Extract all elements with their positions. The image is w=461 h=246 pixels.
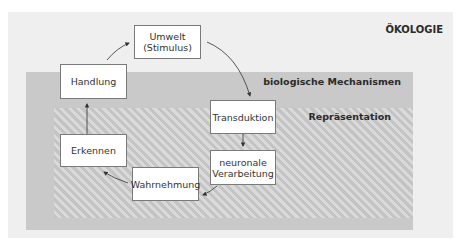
arrow-handlung-umwelt <box>107 43 129 60</box>
node-neuronale-verarbeitung: neuronaleVerarbeitung <box>210 150 276 185</box>
arrow-wahrnehmung-erkennen <box>104 172 128 183</box>
arrow-umwelt-transduktion <box>207 42 250 96</box>
node-umwelt-line2: (Stimulus) <box>143 42 192 53</box>
node-neuronale-line1: neuronale <box>219 157 267 168</box>
node-erkennen-label: Erkennen <box>71 145 116 156</box>
node-wahrnehmung: Wahrnehmung <box>132 167 199 201</box>
node-handlung: Handlung <box>60 64 127 99</box>
node-umwelt-line1: Umwelt <box>149 31 185 42</box>
node-neuronale-line2: Verarbeitung <box>212 168 274 179</box>
node-transduktion: Transduktion <box>210 100 276 134</box>
node-transduktion-label: Transduktion <box>213 112 274 123</box>
node-wahrnehmung-label: Wahrnehmung <box>131 179 201 190</box>
arrow-neuronale-wahrnehmung <box>203 186 217 195</box>
node-umwelt: Umwelt(Stimulus) <box>134 25 201 59</box>
node-erkennen: Erkennen <box>60 134 127 167</box>
node-handlung-label: Handlung <box>71 76 117 87</box>
